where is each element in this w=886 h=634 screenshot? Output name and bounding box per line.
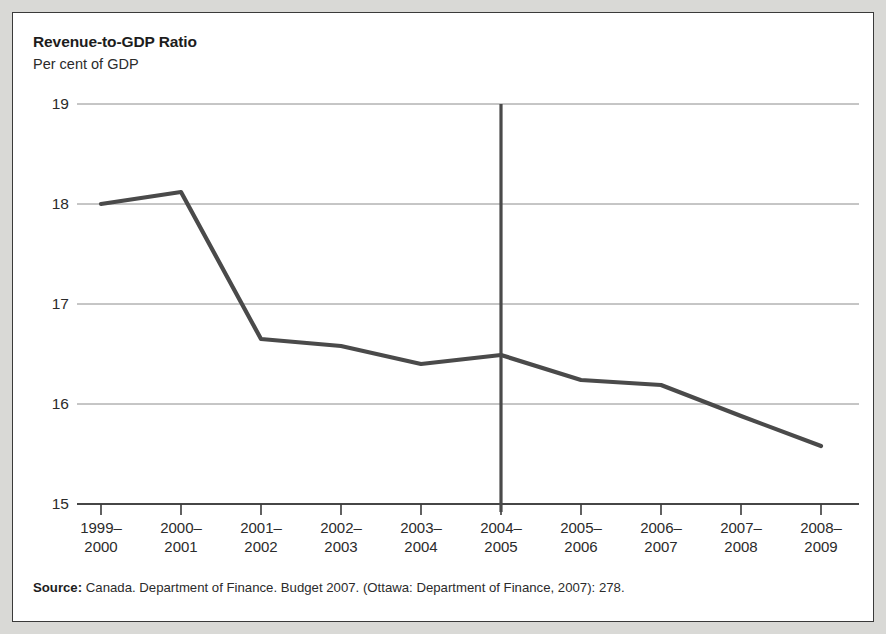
x-tick-label-2005–2006: 2005–2006 bbox=[538, 518, 624, 556]
gridlines-group bbox=[77, 104, 859, 504]
x-tick-label-2000–2001: 2000–2001 bbox=[138, 518, 224, 556]
y-tick-label-19: 19 bbox=[25, 95, 69, 113]
y-tick-label-17: 17 bbox=[25, 295, 69, 313]
x-tick-label-1999–2000: 1999–2000 bbox=[58, 518, 144, 556]
x-tick-label-2004–2005: 2004–2005 bbox=[458, 518, 544, 556]
source-note: Source: Canada. Department of Finance. B… bbox=[33, 579, 859, 597]
x-tick-label-2006–2007: 2006–2007 bbox=[618, 518, 704, 556]
x-tick-label-2001–2002: 2001–2002 bbox=[218, 518, 304, 556]
x-tick-label-2002–2003: 2002–2003 bbox=[298, 518, 384, 556]
source-label: Source: bbox=[33, 580, 82, 595]
chart-plot-area: 1918171615 1999–20002000–20012001–200220… bbox=[13, 13, 875, 623]
x-tick-label-2003–2004: 2003–2004 bbox=[378, 518, 464, 556]
source-text: Canada. Department of Finance. Budget 20… bbox=[86, 580, 625, 595]
y-tick-label-16: 16 bbox=[25, 395, 69, 413]
figure-outer-frame: Revenue-to-GDP Ratio Per cent of GDP 191… bbox=[0, 0, 886, 634]
x-tick-label-2008–2009: 2008–2009 bbox=[778, 518, 864, 556]
revenue-to-gdp-data-line bbox=[101, 192, 821, 446]
figure-card: Revenue-to-GDP Ratio Per cent of GDP 191… bbox=[12, 12, 874, 622]
y-tick-label-18: 18 bbox=[25, 195, 69, 213]
x-axis-ticks-group bbox=[101, 504, 821, 515]
x-tick-label-2007–2008: 2007–2008 bbox=[698, 518, 784, 556]
y-tick-label-15: 15 bbox=[25, 495, 69, 513]
